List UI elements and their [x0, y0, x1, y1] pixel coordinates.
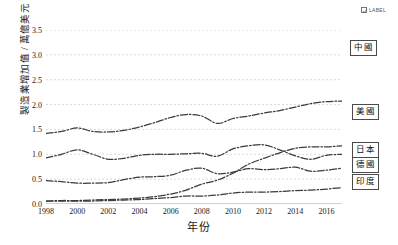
y-tick-label: 3.0 [32, 50, 42, 59]
series-label-印度[interactable]: 印度 [352, 174, 379, 190]
x-tick-label: 2008 [194, 207, 210, 216]
checkbox-checked-icon[interactable] [361, 7, 367, 13]
plot-area: 0.00.51.01.52.02.53.03.5 199820002002200… [46, 30, 342, 204]
chart-canvas [46, 30, 342, 204]
series-line [46, 167, 342, 183]
series-label-德國[interactable]: 德國 [352, 157, 379, 173]
x-tick-label: 2016 [318, 207, 334, 216]
chart-screenshot: LABEL 製造業增加值 / 萬億美元 年份 0.00.51.01.52.02.… [0, 0, 398, 245]
x-tick-label: 2004 [131, 207, 147, 216]
series-line [46, 145, 342, 160]
x-tick-label: 1998 [38, 207, 54, 216]
y-tick-label: 1.0 [32, 150, 42, 159]
series-line [46, 101, 342, 133]
series-label-日本[interactable]: 日本 [352, 142, 379, 158]
series-label-中國[interactable]: 中國 [350, 40, 377, 56]
x-tick-label: 2012 [256, 207, 272, 216]
y-tick-label: 1.5 [32, 125, 42, 134]
y-tick-label: 3.5 [32, 26, 42, 35]
x-tick-label: 2014 [287, 207, 303, 216]
x-tick-label: 2010 [225, 207, 241, 216]
y-axis-title: 製造業增加值 / 萬億美元 [17, 0, 31, 139]
y-tick-label: 2.5 [32, 75, 42, 84]
legend-chip-label: LABEL [369, 7, 386, 13]
y-tick-label: 2.0 [32, 100, 42, 109]
y-tick-label: 0.5 [32, 175, 42, 184]
x-axis-title: 年份 [0, 218, 398, 234]
x-tick-label: 2002 [100, 207, 116, 216]
x-tick-label: 2006 [163, 207, 179, 216]
x-tick-label: 2000 [69, 207, 85, 216]
series-label-美國[interactable]: 美國 [352, 104, 379, 120]
series-line [46, 188, 342, 201]
legend-chip[interactable]: LABEL [361, 7, 386, 13]
